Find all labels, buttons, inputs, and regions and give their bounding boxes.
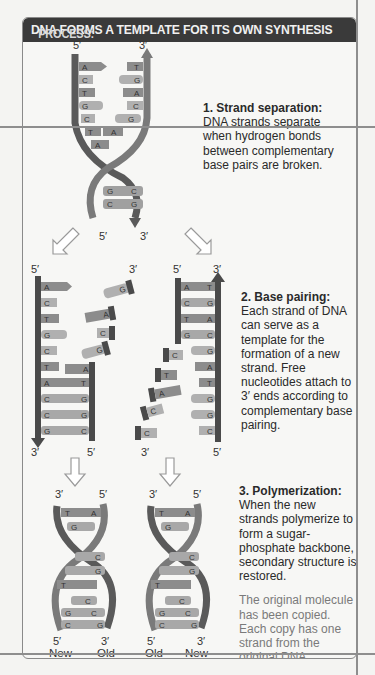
svg-text:C: C [84,115,90,124]
svg-text:3′: 3′ [140,230,148,242]
svg-text:C: C [85,597,91,606]
svg-text:G: G [207,299,213,308]
svg-text:C: C [179,597,185,606]
svg-text:5′: 5′ [53,635,61,647]
step2-caption: 2. Base pairing: Each strand of DNA can … [241,290,353,432]
five-prime-label: 5′ [73,39,81,51]
svg-text:5′: 5′ [99,488,107,500]
svg-text:A: A [91,509,97,518]
step2-right-strand: 5′ 3′ AT CG TA GC G A T G G C C T A [135,263,225,458]
svg-text:C: C [91,609,97,618]
step2-left-strand: 5′ 3′ A C T G C T AT CG CG GC G A C [31,263,137,458]
svg-text:G: G [191,621,197,630]
svg-text:C: C [44,411,50,420]
svg-text:G: G [207,411,213,420]
svg-text:G: G [184,331,190,340]
svg-text:G: G [71,523,77,532]
svg-text:C: C [81,427,87,436]
svg-text:C: C [159,621,165,630]
svg-text:G: G [207,395,213,404]
svg-text:3′: 3′ [101,635,109,647]
svg-text:G: G [44,427,50,436]
svg-text:G: G [165,523,171,532]
page-rule-right [356,0,358,675]
svg-text:C: C [107,200,113,209]
svg-text:A: A [44,283,50,292]
svg-text:T: T [88,128,93,137]
svg-text:T: T [82,89,87,98]
svg-text:G: G [131,200,137,209]
svg-text:5′: 5′ [193,488,201,500]
svg-text:A: A [134,89,140,98]
svg-text:C: C [65,621,71,630]
svg-text:A: A [82,63,88,72]
svg-text:C: C [82,76,88,85]
step3-caption: 3. Polymerization: When the new strands … [239,484,357,659]
svg-text:G: G [82,102,88,111]
svg-text:G: G [189,567,195,576]
svg-text:3′: 3′ [213,263,221,275]
svg-text:C: C [100,329,106,338]
svg-text:5′: 5′ [213,446,221,458]
svg-text:G: G [81,411,87,420]
svg-text:T: T [155,581,160,590]
svg-text:G: G [81,395,87,404]
svg-text:T: T [207,379,212,388]
svg-text:5′: 5′ [87,446,95,458]
svg-text:A: A [111,128,117,137]
figure-panel: PROCESS: DNA FORMS A TEMPLATE FOR ITS OW… [22,17,357,659]
svg-text:T: T [159,509,164,518]
step3-helix-left: 3′ 5′ TA G C G T C GC CG 5′ 3′ New Old [49,488,115,658]
step1-helix: 5′ 3′ A C T G C T A T G A C [73,39,153,242]
svg-text:T: T [207,283,212,292]
svg-text:G: G [95,567,101,576]
svg-text:G: G [107,187,113,196]
svg-text:3′: 3′ [31,446,39,458]
svg-text:5′: 5′ [31,263,39,275]
svg-text:C: C [133,102,139,111]
svg-text:C: C [172,351,178,360]
page-rule-top [0,126,375,128]
svg-text:G: G [44,331,50,340]
svg-text:T: T [44,363,49,372]
svg-text:G: G [207,347,213,356]
svg-text:A: A [207,363,213,372]
summary-note: The original molecule has been copied. E… [239,593,357,659]
svg-text:A: A [83,365,89,374]
svg-text:A: A [184,283,190,292]
svg-text:A: A [95,141,101,150]
svg-text:G: G [134,76,140,85]
svg-text:5′: 5′ [173,263,181,275]
svg-text:T: T [134,63,139,72]
svg-text:G: G [65,609,71,618]
svg-text:5′: 5′ [99,230,107,242]
svg-text:C: C [144,429,150,438]
down-arrows-step1 [53,228,211,254]
svg-text:T: T [164,371,169,380]
down-arrows-step2 [65,458,180,486]
svg-text:C: C [207,331,213,340]
svg-text:A: A [185,509,191,518]
svg-text:C: C [131,187,137,196]
svg-text:T: T [65,509,70,518]
svg-text:C: C [95,553,101,562]
svg-text:C: C [189,553,195,562]
svg-text:C: C [44,299,50,308]
svg-text:C: C [44,347,50,356]
svg-text:A: A [207,315,213,324]
svg-text:5′: 5′ [147,635,155,647]
svg-text:C: C [207,427,213,436]
svg-text:T: T [44,315,49,324]
svg-text:C: C [184,299,190,308]
svg-text:3′: 3′ [55,488,63,500]
svg-text:G: G [128,115,134,124]
svg-text:3′: 3′ [197,635,205,647]
svg-text:T: T [61,581,66,590]
svg-text:3′: 3′ [129,263,137,275]
step1-caption: 1. Strand separation: DNA strands separa… [203,101,343,172]
page-rule-bottom [0,653,375,655]
svg-text:3′: 3′ [149,488,157,500]
svg-text:A: A [44,379,50,388]
svg-text:G: G [159,609,165,618]
svg-text:G: G [97,621,103,630]
